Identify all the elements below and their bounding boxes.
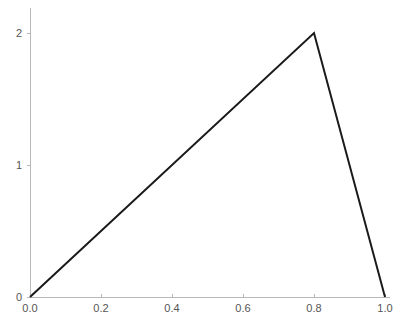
x-tick-label: 0.4 [164, 302, 179, 314]
y-tick-label: 2 [16, 27, 22, 39]
x-tick-label: 0.8 [306, 302, 321, 314]
y-tick-label: 1 [16, 159, 22, 171]
x-tick-label: 0.0 [22, 302, 37, 314]
x-tick-label: 1.0 [377, 302, 392, 314]
chart-figure: 0.0 0.2 0.4 0.6 0.8 1.0 0 1 2 [0, 0, 398, 328]
x-axis-tick-labels: 0.0 0.2 0.4 0.6 0.8 1.0 [22, 302, 392, 314]
y-tick-label: 0 [16, 291, 22, 303]
line-chart-canvas: 0.0 0.2 0.4 0.6 0.8 1.0 0 1 2 [0, 0, 398, 328]
x-tick-label: 0.6 [235, 302, 250, 314]
x-axis-ticks [31, 294, 386, 298]
y-axis-ticks [27, 34, 31, 298]
x-tick-label: 0.2 [93, 302, 108, 314]
y-axis-tick-labels: 0 1 2 [16, 27, 22, 303]
data-series-line [30, 33, 385, 297]
